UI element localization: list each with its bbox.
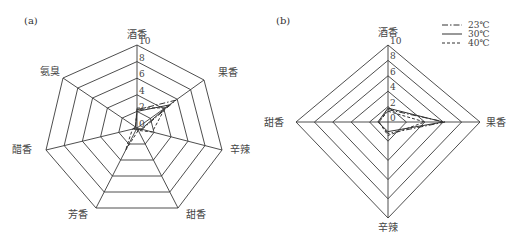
tick-label: 8: [390, 51, 396, 61]
panel-label-b: (b): [276, 15, 290, 26]
panel-label-a: (a): [24, 15, 38, 26]
axis-spoke: [137, 128, 222, 150]
tick-label: 2: [390, 98, 396, 108]
axis-label: 果香: [218, 67, 238, 78]
axis-label: 甜香: [186, 208, 206, 220]
tick-label: 4: [139, 86, 145, 96]
tick-label: 4: [390, 82, 396, 92]
tick-label: 0: [390, 113, 396, 123]
radar-chart-a: 0246810酒香果香辛辣甜香芳香醋香氨臭: [12, 29, 250, 220]
axis-label: 芳香: [68, 208, 88, 220]
axis-spoke: [137, 128, 178, 208]
axis-label: 甜香: [264, 116, 284, 128]
radar-chart-b: 0246810酒香果香辛辣甜香: [264, 27, 506, 233]
tick-label: 8: [139, 53, 145, 63]
tick-label: 6: [139, 69, 145, 79]
figure: (a) 0246810酒香果香辛辣甜香芳香醋香氨臭 (b) 0246810酒香果…: [0, 0, 520, 239]
axis-label: 果香: [486, 117, 506, 128]
legend-label-40: 40℃: [468, 38, 490, 48]
axis-label: 酒香: [127, 29, 147, 40]
series-40℃: [379, 111, 425, 135]
tick-label: 6: [390, 67, 396, 77]
axis-label: 酒香: [378, 27, 398, 38]
axis-label: 辛辣: [378, 221, 398, 233]
axis-spoke: [96, 128, 137, 208]
axis-label: 辛辣: [230, 143, 250, 155]
axis-label: 醋香: [12, 143, 32, 155]
axis-label: 氨臭: [40, 65, 60, 77]
axis-spoke: [46, 128, 137, 150]
legend: 23℃ 30℃ 40℃: [442, 20, 490, 48]
